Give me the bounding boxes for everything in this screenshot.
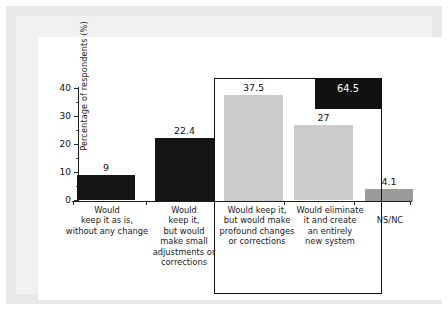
y-tick-label-0: 0 bbox=[51, 195, 71, 205]
cat-line: make small bbox=[148, 236, 220, 246]
y-tick-label-10: 10 bbox=[51, 167, 71, 177]
figure-outer-frame: Percentage of respondents (%) 40 30 20 1… bbox=[6, 6, 442, 304]
cat-line: Would keep it, bbox=[218, 205, 296, 215]
cat-line: keep it, bbox=[148, 215, 220, 225]
cat-line: corrections bbox=[148, 257, 220, 267]
chart-plot-area: Percentage of respondents (%) 40 30 20 1… bbox=[38, 37, 442, 300]
cat-line: or corrections bbox=[218, 236, 296, 246]
cat-line: adjustments or bbox=[148, 247, 220, 257]
cat-line: Would bbox=[148, 205, 220, 215]
bar-keep-small-adjustments[interactable] bbox=[155, 138, 214, 201]
bar-keep-as-is[interactable] bbox=[77, 175, 135, 200]
highlight-group-box bbox=[214, 78, 382, 294]
cat-line: NS/NC bbox=[368, 215, 412, 225]
cat-line: without any change bbox=[64, 226, 150, 236]
cat-line: keep it as is, bbox=[64, 215, 150, 225]
category-label-keep-as-is: Would keep it as is, without any change bbox=[64, 205, 150, 236]
figure-root: Percentage of respondents (%) 40 30 20 1… bbox=[0, 0, 448, 310]
y-tick-label-20: 20 bbox=[51, 139, 71, 149]
y-tick-label-40: 40 bbox=[51, 83, 71, 93]
cat-line: profound changes bbox=[218, 226, 296, 236]
category-label-ns-nc: NS/NC bbox=[368, 215, 412, 225]
cat-line: Would bbox=[64, 205, 150, 215]
cat-line: Would eliminate bbox=[292, 205, 368, 215]
y-tick-label-30: 30 bbox=[51, 111, 71, 121]
cat-line: but would bbox=[148, 226, 220, 236]
category-label-keep-profound-changes: Would keep it, but would make profound c… bbox=[218, 205, 296, 247]
bar-value-keep-as-is: 9 bbox=[77, 162, 135, 173]
y-axis-title: Percentage of respondents (%) bbox=[79, 16, 89, 156]
grouped-total-value: 64.5 bbox=[315, 83, 381, 94]
figure-frame-inner: Percentage of respondents (%) 40 30 20 1… bbox=[16, 16, 432, 294]
cat-line: but would make bbox=[218, 215, 296, 225]
cat-line: it and create bbox=[292, 215, 368, 225]
x-tick-5 bbox=[410, 201, 411, 205]
bar-value-keep-small-adjustments: 22.4 bbox=[155, 125, 214, 136]
grouped-total-badge: 64.5 bbox=[315, 79, 381, 109]
category-label-keep-small-adjustments: Would keep it, but would make small adju… bbox=[148, 205, 220, 267]
category-label-eliminate-new-system: Would eliminate it and create an entirel… bbox=[292, 205, 368, 247]
cat-line: new system bbox=[292, 236, 368, 246]
cat-line: an entirely bbox=[292, 226, 368, 236]
